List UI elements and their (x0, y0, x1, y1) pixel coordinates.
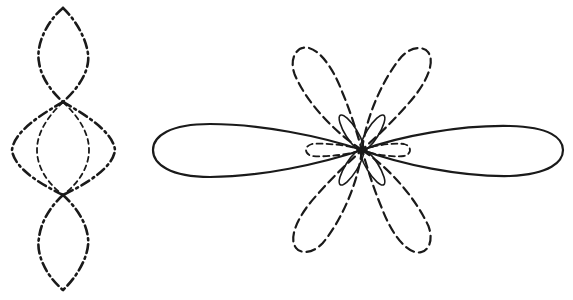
main-right-lobe (362, 126, 563, 176)
top-lobe-right-arc (63, 8, 88, 102)
bottom-lobe-right-arc (63, 195, 88, 290)
main-left-lobe (153, 124, 362, 177)
bottom-lobe-left-arc (38, 195, 63, 290)
right-polar-pattern (153, 40, 563, 259)
diagram-canvas (0, 0, 573, 300)
left-wave-pattern (12, 8, 115, 290)
top-lobe-left-arc (38, 8, 63, 102)
